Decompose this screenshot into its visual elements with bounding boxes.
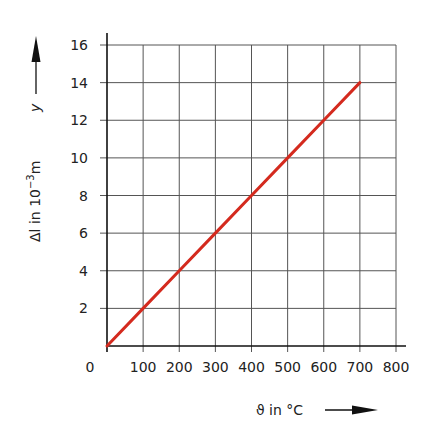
y-axis-title: Δl in 10−3m (25, 161, 43, 242)
x-tick-label: 200 (166, 359, 193, 375)
y-tick-label: 6 (79, 225, 88, 241)
y-tick-label: 12 (70, 112, 88, 128)
x-tick-labels: 0100200300400500600700800 (86, 359, 410, 375)
line-chart: 0100200300400500600700800 246810121416 ϑ… (0, 0, 432, 436)
x-axis-title-group: ϑ in °C (256, 402, 378, 418)
x-axis-title: ϑ in °C (256, 402, 303, 418)
x-tick-label: 800 (383, 359, 410, 375)
x-tick-label: 700 (347, 359, 374, 375)
x-axis-arrow-icon (352, 406, 378, 415)
y-tick-label: 16 (70, 37, 88, 53)
y-tick-label: 8 (79, 188, 88, 204)
y-tick-label: 2 (79, 300, 88, 316)
axes (107, 33, 406, 352)
x-tick-label: 0 (86, 359, 95, 375)
y-axis-symbol: y (27, 103, 43, 113)
y-tick-label: 14 (70, 75, 88, 91)
x-tick-label: 300 (202, 359, 229, 375)
y-tick-labels: 246810121416 (70, 37, 88, 316)
y-tick-label: 4 (79, 263, 88, 279)
y-axis-title-group: Δl in 10−3m y (25, 36, 43, 242)
x-tick-label: 400 (238, 359, 265, 375)
y-axis-arrow-icon (32, 36, 41, 62)
x-tick-label: 500 (274, 359, 301, 375)
series-line (107, 83, 360, 346)
y-tick-label: 10 (70, 150, 88, 166)
data-series (107, 83, 360, 346)
x-tick-label: 100 (130, 359, 157, 375)
x-tick-label: 600 (310, 359, 337, 375)
